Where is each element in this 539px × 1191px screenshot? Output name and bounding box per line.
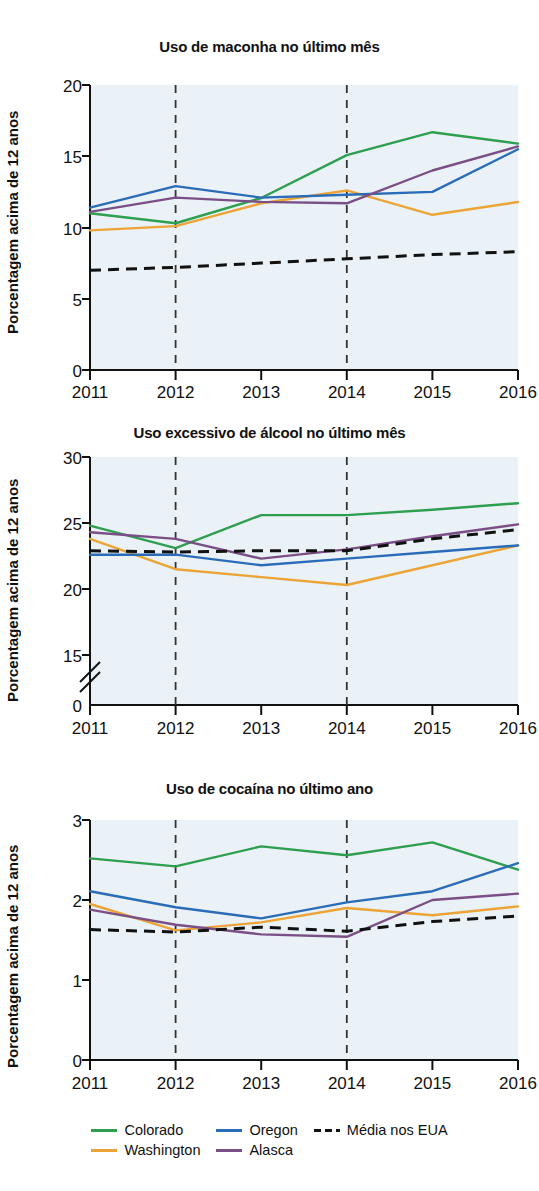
legend-label-alaska: Alasca — [249, 1142, 293, 1158]
chart-panel-cocaine: Uso de cocaína no último ano Porcentagem… — [0, 760, 539, 1140]
x-axis-ticks: 2011 2012 2013 2014 2015 2016 — [72, 370, 537, 402]
svg-text:1: 1 — [73, 972, 82, 991]
svg-text:25: 25 — [63, 515, 82, 534]
svg-text:2013: 2013 — [242, 1074, 280, 1093]
legend-label-usa-average: Média nos EUA — [347, 1122, 448, 1138]
svg-text:2012: 2012 — [157, 719, 195, 738]
chart-svg-alcohol: 30 25 20 15 0 — [0, 400, 539, 760]
legend-label-colorado: Colorado — [124, 1122, 183, 1138]
legend-label-oregon: Oregon — [249, 1122, 297, 1138]
legend-label-washington: Washington — [124, 1142, 200, 1158]
svg-text:2: 2 — [73, 892, 82, 911]
chart-legend: Colorado Oregon Média nos EUA Washington… — [0, 1122, 539, 1158]
y-axis-ticks: 20 15 10 5 0 — [63, 77, 90, 381]
svg-text:2012: 2012 — [157, 1074, 195, 1093]
chart-panel-alcohol: Uso excessivo de álcool no último mês Po… — [0, 400, 539, 760]
svg-text:2014: 2014 — [328, 1074, 366, 1093]
svg-text:15: 15 — [63, 647, 82, 666]
svg-text:15: 15 — [63, 148, 82, 167]
svg-text:0: 0 — [73, 362, 82, 381]
legend-line-oregon-icon — [216, 1129, 242, 1132]
svg-text:0: 0 — [73, 697, 82, 716]
svg-text:2013: 2013 — [242, 719, 280, 738]
legend-line-washington-icon — [91, 1149, 117, 1152]
legend-line-colorado-icon — [91, 1129, 117, 1132]
svg-text:2016: 2016 — [499, 1074, 537, 1093]
legend-item-alaska[interactable]: Alasca — [216, 1142, 297, 1158]
svg-text:2011: 2011 — [72, 719, 109, 738]
chart-panel-marijuana: Uso de maconha no último mês Porcentagem… — [0, 0, 539, 400]
legend-dashed-line-usa-average-icon — [314, 1129, 340, 1132]
svg-text:0: 0 — [73, 1052, 82, 1071]
chart-svg-marijuana: 20 15 10 5 0 2011 — [0, 0, 539, 400]
plot-background — [90, 820, 518, 1060]
legend-grid: Colorado Oregon Média nos EUA Washington… — [91, 1122, 447, 1158]
svg-text:20: 20 — [63, 581, 82, 600]
svg-text:10: 10 — [63, 220, 82, 239]
figure-root: Uso de maconha no último mês Porcentagem… — [0, 0, 539, 1191]
legend-item-oregon[interactable]: Oregon — [216, 1122, 297, 1138]
svg-text:2015: 2015 — [413, 719, 451, 738]
y-axis-ticks: 3 2 1 0 — [73, 812, 90, 1071]
svg-text:30: 30 — [63, 449, 82, 468]
x-axis-ticks: 2011 2012 2013 2014 2015 2016 — [72, 1060, 537, 1093]
chart-svg-cocaine: 3 2 1 0 2011 2012 2013 2014 — [0, 760, 539, 1140]
svg-text:3: 3 — [73, 812, 82, 831]
svg-text:2015: 2015 — [413, 1074, 451, 1093]
legend-item-usa-average[interactable]: Média nos EUA — [314, 1122, 448, 1138]
svg-text:20: 20 — [63, 77, 82, 96]
legend-item-colorado[interactable]: Colorado — [91, 1122, 200, 1138]
legend-line-alaska-icon — [216, 1149, 242, 1152]
svg-text:2011: 2011 — [72, 1074, 109, 1093]
svg-text:2014: 2014 — [328, 719, 366, 738]
x-axis-ticks: 2011 2012 2013 2014 2015 2016 — [72, 705, 537, 738]
legend-item-washington[interactable]: Washington — [91, 1142, 200, 1158]
svg-text:2016: 2016 — [499, 719, 537, 738]
svg-text:5: 5 — [73, 291, 82, 310]
